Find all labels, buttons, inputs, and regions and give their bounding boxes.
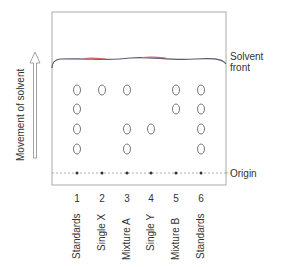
origin-dots (76, 172, 203, 175)
movement-arrow-icon (30, 52, 40, 158)
spots (74, 85, 205, 154)
lane-number: 4 (144, 193, 158, 204)
lane-label: Single Y (145, 214, 156, 251)
origin-label: Origin (230, 168, 257, 179)
lane-number: 6 (194, 193, 208, 204)
lane-label: Mixture A (121, 218, 132, 260)
axis-label: Movement of solvent (15, 69, 26, 161)
solvent-front-line (52, 58, 226, 68)
lane-number: 1 (70, 193, 84, 204)
lane-number: 2 (95, 193, 109, 204)
lane-number: 5 (169, 193, 183, 204)
paper-frame (52, 12, 226, 185)
lane-label: Single X (96, 214, 107, 251)
solvent-front-label-line1: Solvent (230, 51, 263, 62)
chromatogram-figure (0, 0, 282, 267)
lane-label: Standards (71, 213, 82, 259)
solvent-front-label-line2: front (230, 62, 263, 73)
solvent-front-label: Solvent front (230, 51, 263, 73)
lane-number: 3 (120, 193, 134, 204)
lane-label: Standards (195, 213, 206, 259)
lane-label: Mixture B (170, 218, 181, 260)
